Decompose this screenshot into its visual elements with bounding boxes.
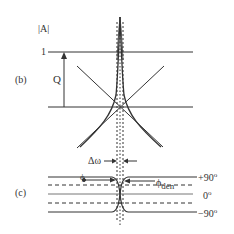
y-axis-label: |A| (38, 24, 49, 34)
degree-symbol: o (214, 207, 218, 215)
unity-level-label: 1 (41, 47, 46, 57)
delta-omega-label: Δω (88, 156, 101, 166)
panel-c-label: (c) (15, 188, 26, 198)
resonance-curve (80, 17, 161, 147)
zero-label: 0o (203, 190, 212, 201)
plus90-label: +90o (198, 172, 217, 183)
phi-label: ϕ (80, 173, 85, 182)
resonance-diagram (0, 0, 234, 234)
phi-den-label: ϕden (156, 178, 174, 188)
q-arrow-head (61, 52, 67, 59)
minus90-value: −90 (198, 208, 214, 219)
q-label: Q (53, 74, 61, 85)
minus90-label: −90o (198, 208, 217, 219)
delta-omega-head-left (112, 159, 117, 164)
delta-omega-head-right (123, 159, 128, 164)
degree-symbol: o (214, 171, 218, 179)
panel-b-label: (b) (15, 75, 27, 85)
phi-den-subscript: den (161, 181, 174, 191)
degree-symbol: o (208, 189, 212, 197)
plus90-value: +90 (198, 172, 214, 183)
